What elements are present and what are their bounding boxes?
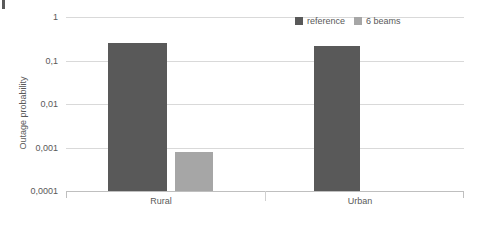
category-separator-tick bbox=[265, 191, 266, 201]
x-category-label-rural: Rural bbox=[106, 196, 216, 206]
legend-label-6-beams: 6 beams bbox=[366, 16, 401, 26]
y-tick-label: 0,01 bbox=[40, 100, 58, 109]
y-tick-label: 1 bbox=[53, 13, 58, 22]
legend-swatch-reference bbox=[295, 17, 303, 25]
legend-item-6-beams[interactable]: 6 beams bbox=[354, 16, 401, 26]
bar-rural-6-beams bbox=[175, 152, 213, 191]
outage-probability-bar-chart: Outage probability 1 0,1 0,01 0,001 0,00… bbox=[0, 0, 478, 225]
x-category-label-urban: Urban bbox=[305, 196, 415, 206]
gridline-1 bbox=[66, 17, 464, 18]
legend-item-reference[interactable]: reference bbox=[295, 16, 345, 26]
plot-area bbox=[66, 17, 464, 191]
legend-swatch-6-beams bbox=[354, 17, 362, 25]
axis-left-tick bbox=[66, 191, 67, 198]
bar-rural-reference bbox=[108, 43, 167, 191]
bar-urban-reference bbox=[314, 46, 360, 191]
chart-legend: reference 6 beams bbox=[295, 16, 401, 26]
y-axis-tick-labels: 1 0,1 0,01 0,001 0,0001 bbox=[0, 0, 62, 225]
axis-right-tick bbox=[463, 191, 464, 198]
legend-label-reference: reference bbox=[307, 16, 345, 26]
y-tick-label: 0,0001 bbox=[30, 187, 58, 196]
y-tick-label: 0,001 bbox=[35, 143, 58, 152]
y-tick-label: 0,1 bbox=[45, 56, 58, 65]
